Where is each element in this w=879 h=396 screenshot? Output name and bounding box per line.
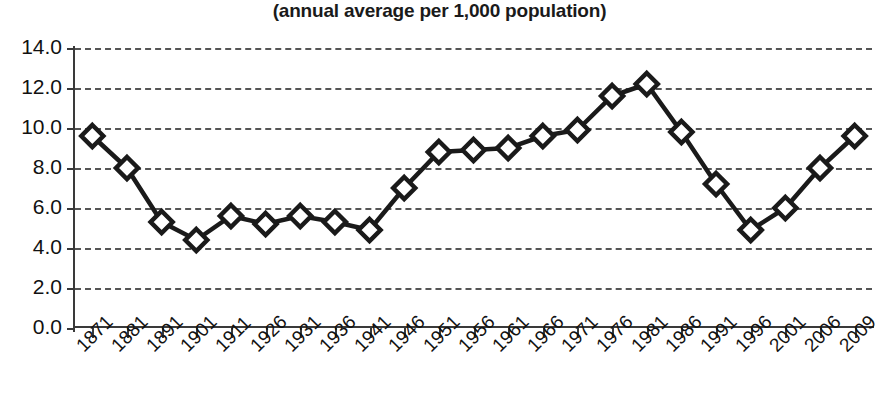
gridline: [75, 88, 872, 90]
y-axis-tick-label: 8.0: [0, 155, 62, 179]
y-axis-tick-label: 2.0: [0, 275, 62, 299]
gridline: [75, 288, 872, 290]
chart-page: (annual average per 1,000 population) 14…: [0, 0, 879, 396]
plot-area: [75, 48, 872, 328]
gridline: [75, 48, 872, 50]
y-tick-mark: [67, 168, 75, 170]
y-axis-tick-label: 14.0: [0, 35, 62, 59]
gridline: [75, 248, 872, 250]
gridline: [75, 208, 872, 210]
y-tick-mark: [67, 48, 75, 50]
y-axis-tick-label: 0.0: [0, 315, 62, 339]
gridline: [75, 168, 872, 170]
chart-title: (annual average per 1,000 population): [0, 0, 879, 24]
y-tick-mark: [67, 248, 75, 250]
y-axis-tick-label: 10.0: [0, 115, 62, 139]
y-tick-mark: [67, 328, 75, 330]
y-axis-tick-label: 12.0: [0, 75, 62, 99]
y-axis-tick-label: 4.0: [0, 235, 62, 259]
y-tick-mark: [67, 208, 75, 210]
gridline: [75, 128, 872, 130]
y-axis-tick-label: 6.0: [0, 195, 62, 219]
y-tick-mark: [67, 128, 75, 130]
y-tick-mark: [67, 288, 75, 290]
y-tick-mark: [67, 88, 75, 90]
